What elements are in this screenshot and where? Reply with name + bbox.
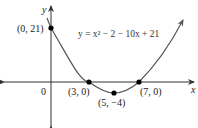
equation-label: y = x² − 2 − 10x + 21 [78, 29, 160, 39]
label-point-5-neg4: (5, −4) [98, 97, 125, 109]
label-point-3-0: (3, 0) [68, 86, 90, 98]
x-axis-label: x [190, 84, 196, 95]
y-axis-label: y [41, 4, 47, 15]
point-3-0 [86, 79, 91, 84]
origin-label: 0 [41, 86, 46, 97]
parabola-chart: (0, 21) (3, 0) (5, −4) (7, 0) 0 y x y = … [0, 0, 198, 128]
point-0-21 [48, 25, 53, 30]
label-point-0-21: (0, 21) [17, 23, 44, 35]
label-point-7-0: (7, 0) [140, 86, 162, 98]
point-7-0 [136, 79, 141, 84]
point-5-neg4 [111, 90, 116, 95]
